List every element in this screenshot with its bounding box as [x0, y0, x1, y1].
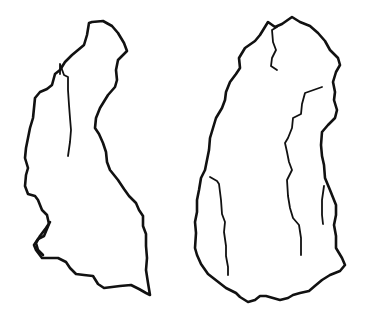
left-artifact	[25, 21, 150, 295]
left-artifact-outline	[25, 21, 150, 295]
right-artifact-left-facet	[210, 177, 228, 275]
right-artifact-right-crack	[285, 87, 322, 255]
artifact-drawings	[0, 0, 365, 319]
right-artifact-top-crack	[271, 27, 277, 70]
right-artifact-right-facet	[322, 186, 324, 224]
left-artifact-ridge-line	[60, 64, 71, 156]
right-artifact-outline	[195, 17, 345, 302]
right-artifact	[195, 17, 345, 302]
left-artifact-bulge	[36, 222, 50, 255]
drawing-canvas	[0, 0, 365, 319]
